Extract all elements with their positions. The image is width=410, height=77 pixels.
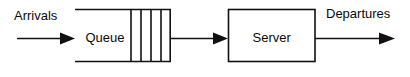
diagram-canvas: Arrivals Queue S bbox=[0, 0, 410, 77]
queue-label: Queue bbox=[85, 30, 124, 45]
departures-arrow bbox=[315, 33, 395, 45]
server-box: Server bbox=[229, 10, 316, 62]
arrivals-label: Arrivals bbox=[14, 8, 58, 23]
arrivals-arrow-head bbox=[60, 33, 75, 45]
queue-box: Queue bbox=[75, 10, 171, 62]
queue-to-server-arrow-head bbox=[213, 33, 228, 45]
server-label: Server bbox=[253, 30, 292, 45]
queueing-system-diagram: Arrivals Queue S bbox=[0, 0, 410, 77]
departures-arrow-head bbox=[379, 33, 395, 45]
arrivals-arrow bbox=[17, 33, 75, 45]
departures-label: Departures bbox=[326, 6, 391, 21]
queue-to-server-arrow bbox=[171, 33, 228, 45]
queue-slot-dividers bbox=[131, 10, 161, 62]
